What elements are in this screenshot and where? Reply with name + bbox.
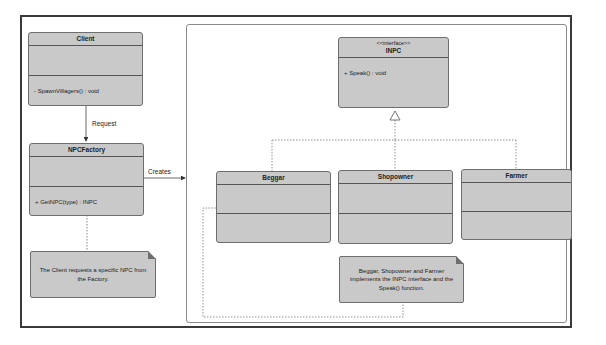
class-beggar-name: Beggar — [262, 174, 284, 182]
class-npcfactory-name: NPCFactory — [68, 146, 105, 154]
class-shopowner-header: Shopowner — [339, 171, 452, 184]
class-client-attributes — [29, 46, 142, 76]
interface-stereotype: <<interface>> — [377, 40, 411, 47]
interface-inpc[interactable]: <<interface>> INPC + Speak() : void — [338, 37, 449, 108]
class-beggar[interactable]: Beggar — [216, 171, 331, 243]
note-implements[interactable]: Beggar, Shopowner and Farmer implements … — [339, 256, 464, 303]
class-beggar-header: Beggar — [217, 172, 330, 185]
class-npcfactory-attributes — [30, 157, 143, 187]
interface-inpc-header: <<interface>> INPC — [339, 38, 448, 58]
class-farmer-name: Farmer — [505, 172, 527, 180]
class-shopowner-attributes — [339, 184, 452, 214]
class-client[interactable]: Client - SpawnVillagers() : void — [28, 32, 143, 106]
class-farmer-header: Farmer — [462, 170, 571, 183]
class-client-name: Client — [76, 35, 94, 43]
class-beggar-attributes — [217, 185, 330, 214]
class-farmer-methods — [462, 212, 571, 240]
creates-label: Creates — [148, 168, 171, 175]
note-client-text: The Client requests a specific NPC from … — [37, 266, 149, 282]
interface-inpc-methods: + Speak() : void — [339, 58, 448, 88]
realization-triangle-icon — [390, 111, 400, 120]
class-farmer-attributes — [462, 183, 571, 212]
class-shopowner-name: Shopowner — [378, 173, 413, 181]
class-npcfactory-header: NPCFactory — [30, 144, 143, 157]
class-beggar-methods — [217, 214, 330, 243]
note-implements-text: Beggar, Shopowner and Farmer implements … — [346, 267, 457, 291]
method-get-npc: + GetNPC(type) : INPC — [35, 199, 97, 205]
method-spawn-villagers: - SpawnVillagers() : void — [34, 88, 99, 94]
method-speak: + Speak() : void — [344, 70, 386, 76]
class-client-methods: - SpawnVillagers() : void — [29, 76, 142, 106]
class-npcfactory[interactable]: NPCFactory + GetNPC(type) : INPC — [29, 143, 144, 216]
request-label: Request — [92, 120, 116, 127]
class-shopowner-methods — [339, 214, 452, 244]
interface-inpc-name: INPC — [386, 47, 402, 55]
note-client-request[interactable]: The Client requests a specific NPC from … — [30, 251, 156, 298]
class-client-header: Client — [29, 33, 142, 46]
class-farmer[interactable]: Farmer — [461, 169, 572, 240]
class-npcfactory-methods: + GetNPC(type) : INPC — [30, 187, 143, 216]
class-shopowner[interactable]: Shopowner — [338, 170, 453, 244]
